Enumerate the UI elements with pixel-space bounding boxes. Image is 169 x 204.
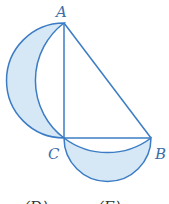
side-ab <box>64 23 151 138</box>
left-lune <box>7 23 64 138</box>
lune-diagram: A C B (D) ... (E) ... <box>0 0 169 204</box>
bottom-lune <box>64 138 151 182</box>
option-e-partial: (E) ... <box>98 198 140 204</box>
option-d-partial: (D) ... <box>24 198 67 204</box>
label-c: C <box>48 145 60 163</box>
label-b: B <box>154 145 166 163</box>
label-a: A <box>54 3 67 21</box>
